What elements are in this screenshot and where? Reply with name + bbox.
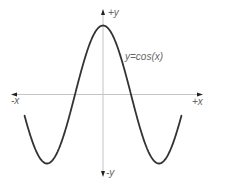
y-axis-down-arrow-icon xyxy=(101,171,105,177)
function-annotation: y=cos(x) xyxy=(124,51,163,62)
cosine-chart: +y -y -x +x y=cos(x) xyxy=(0,0,229,187)
y-axis-up-arrow-icon xyxy=(101,9,105,15)
x-negative-label: -x xyxy=(11,95,20,106)
y-negative-label: -y xyxy=(106,167,115,178)
x-positive-label: +x xyxy=(192,96,204,107)
y-positive-label: +y xyxy=(108,7,120,18)
